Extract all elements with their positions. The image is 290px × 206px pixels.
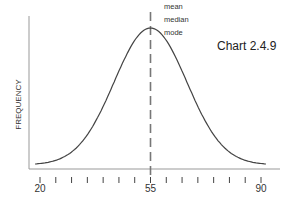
annotation-mode: mode — [164, 26, 183, 39]
x-tick-label-90: 90 — [255, 183, 267, 194]
annotation-median: median — [164, 13, 189, 26]
chart-title: Chart 2.4.9 — [217, 39, 276, 53]
annotation-mean: mean — [164, 0, 183, 13]
x-tick-label-20: 20 — [34, 183, 46, 194]
chart: 205590 — [0, 0, 290, 206]
x-tick-label-55: 55 — [145, 183, 157, 194]
y-axis-label: FREQUENCY — [14, 75, 23, 135]
